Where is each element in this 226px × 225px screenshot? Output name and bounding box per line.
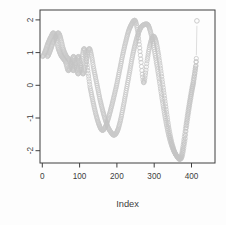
- r-scatter-plot-figure: 0100200300400 -2-1012 Index: [0, 0, 226, 225]
- y-tick-label: 2: [26, 17, 35, 22]
- x-tick-label: 0: [40, 172, 45, 181]
- series-trace-2: [45, 22, 198, 161]
- x-tick-label: 300: [147, 172, 161, 181]
- series-trace-1: [41, 18, 199, 161]
- tail-connector-line: [196, 26, 197, 55]
- x-tick-label: 100: [73, 172, 87, 181]
- scatter-plot-canvas: 0100200300400 -2-1012 Index: [0, 0, 226, 225]
- y-tick-label: -2: [26, 147, 35, 155]
- y-axis: -2-1012: [26, 17, 40, 154]
- y-tick-label: 0: [26, 83, 35, 88]
- y-tick-label: 1: [26, 50, 35, 55]
- series-tail: [195, 19, 200, 56]
- x-tick-label: 200: [110, 172, 124, 181]
- x-axis-title: Index: [116, 199, 139, 209]
- data-point: [139, 64, 143, 68]
- series-layer: [41, 18, 200, 161]
- end-data-point: [195, 19, 200, 24]
- y-tick-label: -1: [26, 114, 35, 122]
- x-axis: 0100200300400: [40, 163, 199, 181]
- x-tick-label: 400: [185, 172, 199, 181]
